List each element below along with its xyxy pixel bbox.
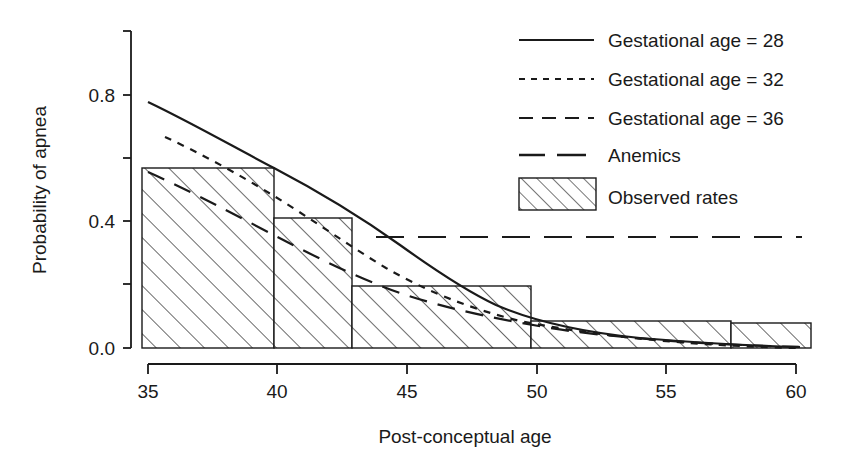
legend-item-gestational-age-28: Gestational age = 28	[519, 30, 784, 51]
legend-label-0: Gestational age = 28	[608, 30, 784, 51]
legend-marker-hatch-swatch	[519, 178, 596, 210]
bar-bin-1	[142, 168, 274, 348]
y-tick-label-1: 0.4	[89, 211, 116, 232]
legend-item-anemics: Anemics	[519, 145, 681, 166]
legend-item-observed-rates: Observed rates	[519, 178, 738, 210]
x-tick-label-35: 35	[137, 381, 158, 402]
legend-label-2: Gestational age = 36	[608, 108, 784, 129]
bar-bin-3	[352, 286, 531, 348]
x-tick-label-40: 40	[266, 381, 287, 402]
apnea-probability-chart: 0.0 0.4 0.8 Probability of apnea 35 40 4…	[0, 0, 857, 462]
legend-item-gestational-age-32: Gestational age = 32	[519, 69, 784, 90]
legend-label-3: Anemics	[608, 145, 681, 166]
x-tick-label-55: 55	[655, 381, 676, 402]
y-axis-title: Probability of apnea	[29, 106, 50, 274]
x-axis: 35 40 45 50 55 60 Post-conceptual age	[137, 364, 806, 447]
chart-legend: Gestational age = 28 Gestational age = 3…	[519, 30, 784, 210]
legend-label-1: Gestational age = 32	[608, 69, 784, 90]
x-tick-label-50: 50	[526, 381, 547, 402]
chart-canvas: 0.0 0.4 0.8 Probability of apnea 35 40 4…	[0, 0, 857, 462]
y-tick-label-0: 0.0	[89, 338, 115, 359]
bar-bin-2	[274, 218, 352, 348]
x-axis-title: Post-conceptual age	[378, 426, 551, 447]
legend-item-gestational-age-36: Gestational age = 36	[519, 108, 784, 129]
y-tick-label-2: 0.8	[89, 85, 115, 106]
y-axis: 0.0 0.4 0.8 Probability of apnea	[29, 31, 131, 359]
x-tick-label-60: 60	[785, 381, 806, 402]
x-tick-label-45: 45	[396, 381, 417, 402]
legend-label-4: Observed rates	[608, 187, 738, 208]
